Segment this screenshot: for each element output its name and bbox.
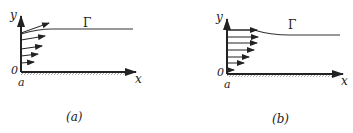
y-axis-label: y — [9, 8, 17, 22]
caption-a: (a) — [66, 110, 83, 124]
origin-label: 0 — [11, 64, 18, 77]
boundary-gamma-curve — [21, 29, 133, 34]
y-axis-label: y — [215, 10, 223, 24]
gamma-label: Γ — [288, 18, 296, 32]
x-axis-label: x — [341, 74, 348, 88]
figure-a: y x 0 a Γ (a) — [9, 8, 142, 124]
point-a-label: a — [18, 76, 25, 89]
diagram-canvas: y x 0 a Γ (a) y x 0 a Γ (b) — [0, 0, 353, 133]
figure-b: y x 0 a Γ (b) — [215, 10, 348, 126]
velocity-arrows — [227, 30, 258, 70]
boundary-gamma-curve — [227, 30, 340, 35]
origin-label: 0 — [217, 66, 224, 79]
gamma-label: Γ — [83, 16, 91, 30]
caption-b: (b) — [272, 112, 289, 126]
point-a-label: a — [224, 78, 231, 91]
x-axis-label: x — [135, 72, 142, 86]
